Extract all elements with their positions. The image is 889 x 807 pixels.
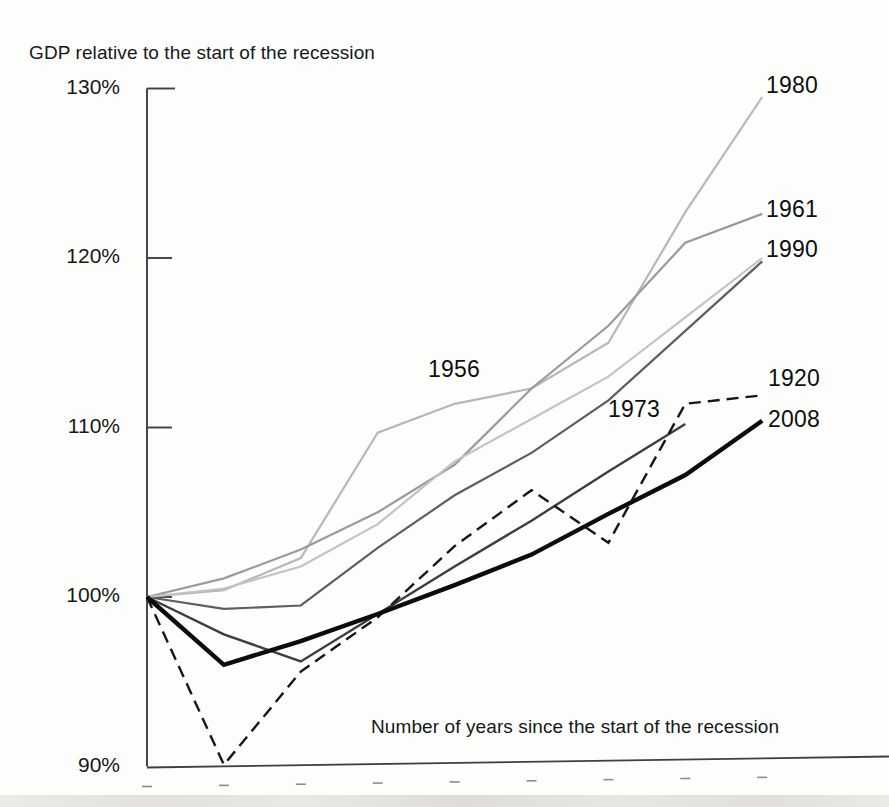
series-label-2008: 2008: [768, 406, 820, 433]
scan-noise-band: [0, 795, 889, 807]
series-label-1980: 1980: [766, 72, 818, 99]
series-line-1990: [147, 261, 762, 609]
x-axis-spine: [147, 757, 889, 768]
series-line-1973: [147, 424, 685, 661]
y-tick-label: 110%: [28, 414, 120, 438]
y-tick-label: 130%: [28, 75, 120, 99]
series-line-1961: [147, 214, 762, 597]
series-label-1973: 1973: [608, 396, 660, 423]
series-paths: [147, 97, 762, 765]
series-label-1956: 1956: [428, 356, 480, 383]
series-line-1920: [147, 395, 762, 765]
series-label-1961: 1961: [766, 196, 818, 223]
chart-page: GDP relative to the start of the recessi…: [0, 0, 889, 807]
y-tick-label: 100%: [28, 583, 120, 607]
series-label-1990: 1990: [766, 236, 818, 263]
y-tick-label: 90%: [28, 753, 120, 777]
axis-tick-marks: [142, 258, 767, 787]
y-tick-label: 120%: [28, 244, 120, 268]
series-line-2008: [147, 421, 762, 665]
series-line-1980: [147, 97, 762, 597]
line-chart-plot: [0, 0, 889, 807]
series-label-1920: 1920: [768, 365, 820, 392]
